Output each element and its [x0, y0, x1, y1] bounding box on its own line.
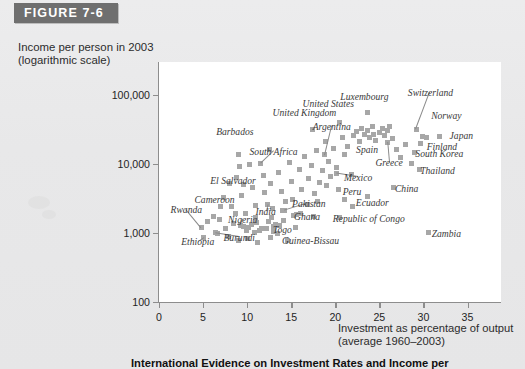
- point-label-south-korea: South Korea: [415, 148, 463, 159]
- figure-caption: International Evidence on Investment Rat…: [131, 357, 525, 369]
- x-tick-label: 10: [241, 311, 253, 323]
- point-label-norway: Norway: [431, 109, 461, 120]
- data-point: [351, 133, 356, 138]
- data-point: [287, 160, 292, 165]
- data-point: [312, 191, 317, 196]
- data-point: [331, 146, 336, 151]
- y-tick-label: 100: [132, 296, 150, 308]
- x-axis-title: Investment as percentage of output (aver…: [338, 322, 525, 348]
- data-point: [229, 204, 234, 209]
- scatter-plot-area: 100,00010,0001,000100 05101520253035 Swi…: [158, 62, 501, 303]
- x-axis-title-line2: (average 1960–2003): [338, 335, 525, 348]
- point-label-cameroon: Cameroon: [194, 193, 234, 204]
- data-point: [380, 126, 385, 131]
- y-tick-label: 1,000: [123, 227, 150, 239]
- data-point: [314, 148, 319, 153]
- data-point: [342, 152, 347, 157]
- data-point: [365, 128, 370, 133]
- data-point: [264, 226, 269, 231]
- x-tick: [203, 302, 204, 308]
- x-tick: [247, 302, 248, 308]
- data-point: [320, 168, 325, 173]
- scan-smudge: [28, 196, 50, 209]
- point-label-zambia: Zambia: [432, 227, 461, 238]
- x-axis-title-line1: Investment as percentage of output: [338, 322, 525, 335]
- data-point: [262, 190, 267, 195]
- point-label-peru: Peru: [343, 185, 362, 196]
- data-point: [237, 164, 242, 169]
- figure-banner-label: FIGURE 7-6: [14, 3, 118, 23]
- data-point: [350, 204, 355, 209]
- data-point-zambia: [426, 230, 431, 235]
- point-label-spain: Spain: [356, 143, 378, 154]
- y-axis-title-line1: Income per person in 2003: [18, 41, 178, 54]
- data-point: [354, 129, 359, 134]
- point-label-ghana: Ghana: [294, 211, 320, 222]
- y-axis-title: Income per person in 2003 (logarithmic s…: [18, 41, 178, 68]
- x-tick: [379, 302, 380, 308]
- point-label-ecuador: Ecuador: [356, 196, 389, 207]
- data-point: [211, 214, 216, 219]
- point-label-china: China: [395, 182, 418, 193]
- point-label-switzerland: Switzerland: [408, 86, 453, 97]
- data-point: [293, 225, 298, 230]
- point-label-united-kingdom: United Kingdom: [273, 107, 337, 118]
- y-axis-title-line2: (logarithmic scale): [18, 54, 178, 67]
- data-point: [302, 154, 307, 159]
- data-point: [317, 180, 322, 185]
- point-label-ethiopia: Ethiopia: [181, 236, 214, 247]
- data-point: [266, 219, 271, 224]
- data-point: [299, 187, 304, 192]
- point-label-argentina: Argentina: [313, 120, 351, 131]
- data-point: [409, 161, 414, 166]
- point-label-thailand: Thailand: [420, 165, 455, 176]
- y-tick: [153, 95, 159, 96]
- point-label-burundi: Burundi: [223, 231, 254, 242]
- point-label-nigeria: Nigeria: [228, 213, 257, 224]
- x-tick: [468, 302, 469, 308]
- data-point: [370, 124, 375, 129]
- y-tick-label: 100,000: [112, 89, 150, 101]
- data-point: [334, 165, 339, 170]
- scan-smudge: [42, 210, 56, 219]
- data-point: [259, 226, 264, 231]
- y-tick: [153, 164, 159, 165]
- data-point: [382, 133, 387, 138]
- point-label-india: India: [256, 206, 276, 217]
- x-tick-label: 15: [285, 311, 297, 323]
- x-tick: [159, 302, 160, 308]
- x-tick-label: 5: [200, 311, 206, 323]
- data-point: [289, 179, 294, 184]
- x-tick: [423, 302, 424, 308]
- data-point: [283, 199, 288, 204]
- data-point-japan: [437, 134, 442, 139]
- point-label-barbados: Barbados: [216, 126, 253, 137]
- data-point: [326, 159, 331, 164]
- data-point: [345, 144, 350, 149]
- data-point: [342, 197, 347, 202]
- data-point: [247, 162, 252, 167]
- data-point: [424, 135, 429, 140]
- data-point: [268, 181, 273, 186]
- point-label-south-africa: South Africa: [250, 145, 298, 156]
- data-point: [276, 170, 281, 175]
- point-label-mexico: Mexico: [344, 171, 372, 182]
- data-point: [268, 235, 273, 240]
- data-point: [306, 176, 311, 181]
- data-point: [255, 240, 260, 245]
- x-tick: [335, 302, 336, 308]
- y-tick-label: 10,000: [118, 158, 150, 170]
- point-label-pakistan: Pakistan: [292, 198, 326, 209]
- x-tick-label: 0: [156, 311, 162, 323]
- x-tick: [291, 302, 292, 308]
- data-point-finland: [418, 141, 423, 146]
- data-point: [373, 138, 378, 143]
- point-label-guinea-bissau: Guinea-Bissau: [282, 235, 339, 246]
- data-point-spain: [371, 132, 376, 137]
- figure-banner: FIGURE 7-6: [14, 3, 118, 23]
- data-point: [217, 217, 222, 222]
- point-label-greece: Greece: [375, 157, 402, 168]
- point-label-rwanda: Rwanda: [171, 204, 202, 215]
- data-point: [340, 135, 345, 140]
- data-point: [359, 126, 364, 131]
